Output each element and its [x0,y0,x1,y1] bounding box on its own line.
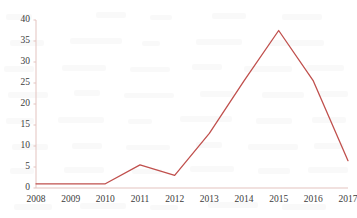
x-axis-label-2015: 2015 [269,195,288,205]
x-axis-label-2010: 2010 [96,195,115,205]
y-axis-label-0: 0 [8,183,30,193]
y-axis-label-15: 15 [8,120,30,130]
y-axis-label-40: 40 [8,15,30,25]
x-axis-label-2009: 2009 [61,195,80,205]
line-chart-figure: 0510152025303540 20082009201020112012201… [0,0,357,218]
y-axis-label-20: 20 [8,99,30,109]
x-axis-label-2013: 2013 [200,195,219,205]
x-axis-label-2008: 2008 [27,195,46,205]
y-axis-label-5: 5 [8,162,30,172]
x-axis-label-2017: 2017 [339,195,357,205]
x-axis-label-2014: 2014 [235,195,254,205]
y-axis-label-25: 25 [8,78,30,88]
x-axis-label-2012: 2012 [165,195,184,205]
chart-plot-area [0,0,357,218]
x-axis-label-2011: 2011 [131,195,150,205]
x-axis-label-2016: 2016 [304,195,323,205]
y-axis-label-30: 30 [8,57,30,67]
y-axis-label-35: 35 [8,36,30,46]
data-series-line [36,31,348,184]
y-axis-label-10: 10 [8,141,30,151]
